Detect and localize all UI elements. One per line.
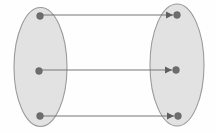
domain-element-dot-2 bbox=[36, 68, 43, 75]
codomain-element-dot-2 bbox=[173, 67, 180, 74]
diagram-svg-canvas bbox=[0, 0, 216, 134]
codomain-set bbox=[150, 4, 204, 126]
domain-element-dot-1 bbox=[37, 13, 44, 20]
domain-set bbox=[14, 8, 67, 127]
codomain-element-dot-3 bbox=[175, 113, 182, 120]
mapping-arrow-3 bbox=[43, 112, 174, 119]
domain-set-ellipse bbox=[14, 8, 67, 127]
set-mapping-diagram bbox=[0, 0, 216, 134]
codomain-element-dot-1 bbox=[174, 12, 181, 19]
domain-element-dot-3 bbox=[37, 113, 44, 120]
mapping-arrow-1 bbox=[43, 11, 173, 18]
codomain-set-ellipse bbox=[150, 4, 204, 126]
